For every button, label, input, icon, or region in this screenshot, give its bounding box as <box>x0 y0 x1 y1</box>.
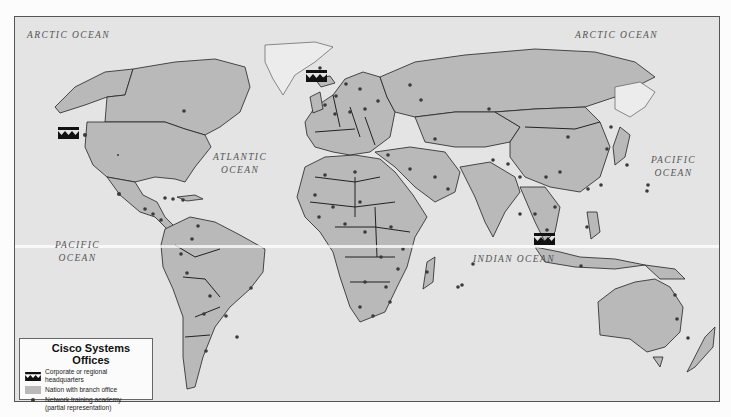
ocean-label-arctic-east: ARCTIC OCEAN <box>575 29 658 42</box>
ocean-label-atlantic: ATLANTIC OCEAN <box>213 151 267 177</box>
new-zealand <box>687 327 715 372</box>
legend-label-academy: Network training academy <box>45 396 121 404</box>
legend-title: Cisco Systems Offices <box>35 342 147 366</box>
tasmania <box>653 357 663 367</box>
legend-item-headquarters: Corporate or regional headquarters <box>25 368 147 384</box>
pacific-west-line1: PACIFIC <box>55 239 100 252</box>
legend-label-headquarters: Corporate or regional headquarters <box>45 368 147 384</box>
philippines <box>587 212 600 239</box>
pacific-east-line1: PACIFIC <box>651 154 696 167</box>
australia <box>598 279 683 352</box>
ocean-label-indian: INDIAN OCEAN <box>473 253 555 266</box>
south-america <box>161 217 265 389</box>
map-legend: Cisco Systems Offices Corporate or regio… <box>19 338 153 400</box>
cisco-hq-icon <box>306 70 327 82</box>
greenland <box>265 42 333 95</box>
legend-label-academy-wrap: Network training academy (partial repres… <box>45 396 121 412</box>
atlantic-line1: ATLANTIC <box>213 151 267 164</box>
dot-icon <box>31 398 35 402</box>
east-siberia <box>615 82 655 117</box>
cisco-hq-icon <box>534 233 555 245</box>
ocean-label-arctic-west: ARCTIC OCEAN <box>27 29 110 42</box>
gray-swatch-icon <box>25 386 41 394</box>
russia <box>380 49 655 117</box>
papua-new-guinea <box>645 265 685 279</box>
ocean-label-pacific-east: PACIFIC OCEAN <box>651 154 696 180</box>
legend-item-branch: Nation with branch office <box>25 386 147 394</box>
usa <box>85 122 211 182</box>
japan <box>613 127 630 165</box>
madagascar <box>423 257 435 289</box>
legend-label-academy-note: (partial representation) <box>45 404 121 412</box>
cisco-hq-icon <box>25 372 41 381</box>
pacific-west-line2: OCEAN <box>55 252 100 265</box>
india <box>460 162 520 237</box>
ocean-label-pacific-west: PACIFIC OCEAN <box>55 239 100 265</box>
cisco-hq-icon <box>58 127 79 139</box>
mexico-central-america <box>107 177 175 229</box>
atlantic-line2: OCEAN <box>213 164 267 177</box>
scan-seam <box>15 245 720 248</box>
legend-label-branch: Nation with branch office <box>45 386 117 394</box>
uk <box>310 92 323 113</box>
pacific-east-line2: OCEAN <box>651 167 696 180</box>
legend-item-academy: Network training academy (partial repres… <box>25 396 147 412</box>
caribbean <box>177 195 203 201</box>
